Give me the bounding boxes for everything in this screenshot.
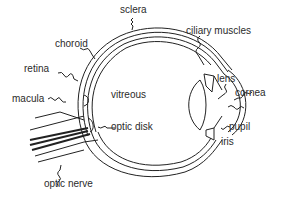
label-iris: iris <box>221 137 234 147</box>
label-sclera: sclera <box>120 5 147 15</box>
label-macula: macula <box>12 94 44 104</box>
label-retina: retina <box>24 64 49 74</box>
label-optic-nerve: optic nerve <box>44 179 93 189</box>
label-cornea: cornea <box>235 88 266 98</box>
label-choroid: choroid <box>55 39 88 49</box>
label-optic-disk: optic disk <box>111 122 153 132</box>
eyeball-layers <box>78 28 232 177</box>
label-pupil: pupil <box>229 122 250 132</box>
lens-shape <box>189 80 206 130</box>
label-lens: lens <box>217 74 235 84</box>
label-vitreous: vitreous <box>111 90 146 100</box>
label-ciliary-muscles: ciliary muscles <box>186 26 251 36</box>
optic-nerve-shape <box>30 112 98 162</box>
